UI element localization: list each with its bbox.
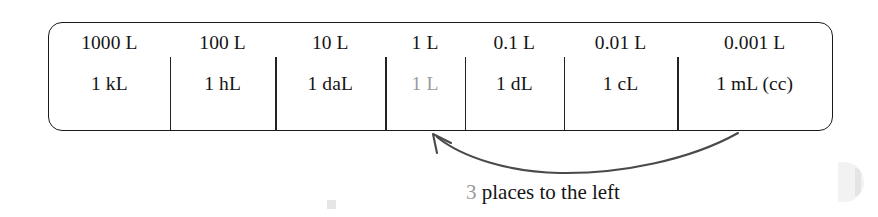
unit-label: 1 hL <box>204 63 241 105</box>
value-label: 1 L <box>412 23 439 63</box>
unit-label: 1 mL (cc) <box>716 63 793 105</box>
column-divider <box>170 57 171 130</box>
value-label: 1000 L <box>81 23 137 63</box>
unit-column-kilolitre[interactable]: 1000 L 1 kL <box>49 23 170 130</box>
column-divider <box>275 57 276 130</box>
annotation-text: places to the left <box>477 180 620 204</box>
unit-column-decilitre[interactable]: 0.1 L 1 dL <box>465 23 564 130</box>
column-divider <box>385 57 386 130</box>
unit-column-millilitre[interactable]: 0.001 L 1 mL (cc) <box>677 23 832 130</box>
column-divider <box>564 57 565 130</box>
unit-column-dekalitre[interactable]: 10 L 1 daL <box>275 23 385 130</box>
conversion-chart-box: 1000 L 1 kL 100 L 1 hL 10 L 1 daL 1 L 1 … <box>48 22 833 131</box>
scan-artifact-right <box>838 162 864 202</box>
column-divider <box>677 57 678 130</box>
figure-root: 1000 L 1 kL 100 L 1 hL 10 L 1 daL 1 L 1 … <box>0 0 878 217</box>
unit-column-centilitre[interactable]: 0.01 L 1 cL <box>564 23 678 130</box>
unit-label: 1 cL <box>603 63 639 105</box>
value-label: 100 L <box>199 23 246 63</box>
value-label: 0.1 L <box>493 23 535 63</box>
value-label: 10 L <box>312 23 349 63</box>
column-divider <box>465 57 466 130</box>
annotation-caption: 3 places to the left <box>466 179 620 205</box>
annotation-count: 3 <box>466 180 477 204</box>
value-label: 0.01 L <box>595 23 647 63</box>
value-label: 0.001 L <box>724 23 785 63</box>
unit-label: 1 L <box>412 63 439 105</box>
conversion-columns: 1000 L 1 kL 100 L 1 hL 10 L 1 daL 1 L 1 … <box>49 23 832 130</box>
unit-label: 1 kL <box>91 63 128 105</box>
scan-artifact-smudge <box>327 200 336 209</box>
unit-label: 1 daL <box>308 63 353 105</box>
unit-column-hectolitre[interactable]: 100 L 1 hL <box>170 23 276 130</box>
unit-label: 1 dL <box>496 63 533 105</box>
unit-column-litre[interactable]: 1 L 1 L <box>385 23 465 130</box>
